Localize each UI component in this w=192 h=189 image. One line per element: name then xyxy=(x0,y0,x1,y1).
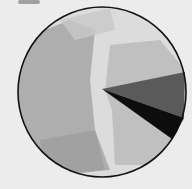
cropped-text-fragment xyxy=(18,0,40,4)
circle-wedge-drawing xyxy=(0,0,192,189)
drawing xyxy=(0,0,192,189)
